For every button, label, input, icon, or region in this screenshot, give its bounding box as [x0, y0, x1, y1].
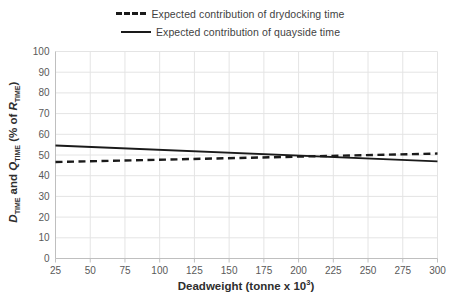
- x-tick-label: 300: [429, 265, 446, 276]
- x-axis-title: Deadweight (tonne x 103): [55, 278, 437, 292]
- x-tick-label: 250: [360, 265, 377, 276]
- y-tick-label: 60: [38, 129, 50, 140]
- y-tick-label: 10: [38, 232, 50, 243]
- x-tick-label: 100: [151, 265, 168, 276]
- x-tick-label: 75: [119, 265, 131, 276]
- y-tick-label: 100: [33, 46, 50, 57]
- plot-area: 0102030405060708090100 25507510012515017…: [0, 0, 461, 304]
- plot-svg: 0102030405060708090100 25507510012515017…: [0, 0, 461, 304]
- x-tick-label: 150: [221, 265, 238, 276]
- y-tick-label: 50: [38, 150, 50, 161]
- axis-lines: [56, 52, 438, 263]
- y-tick-label: 70: [38, 108, 50, 119]
- x-tick-label: 200: [290, 265, 307, 276]
- x-tick-label: 50: [85, 265, 97, 276]
- x-tick-labels: 255075100125150175200225250275300: [50, 265, 446, 276]
- x-tick-label: 225: [325, 265, 342, 276]
- y-tick-label: 30: [38, 191, 50, 202]
- y-tick-label: 90: [38, 67, 50, 78]
- x-tick-label: 125: [186, 265, 203, 276]
- y-tick-label: 40: [38, 170, 50, 181]
- data-series-lines: [56, 145, 438, 162]
- y-tick-label: 20: [38, 212, 50, 223]
- x-tick-label: 25: [50, 265, 62, 276]
- y-tick-label: 0: [44, 253, 50, 264]
- x-tick-label: 275: [394, 265, 411, 276]
- y-axis-title: DTIME and QTIME (% of RTIME): [7, 52, 21, 252]
- series-line-quayside: [56, 145, 438, 161]
- y-tick-labels: 0102030405060708090100: [33, 46, 50, 264]
- x-tick-label: 175: [256, 265, 273, 276]
- line-chart: Expected contribution of drydocking time…: [0, 0, 461, 304]
- y-tick-label: 80: [38, 87, 50, 98]
